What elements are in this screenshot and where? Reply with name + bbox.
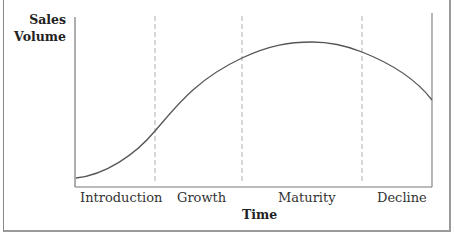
x-axis-label: Time (242, 207, 277, 222)
y-label-line2: Volume (14, 28, 66, 45)
phase-introduction: Introduction (80, 190, 162, 205)
y-label-line1: Sales (14, 11, 66, 28)
phase-maturity: Maturity (278, 190, 336, 205)
phase-decline: Decline (377, 190, 427, 205)
phase-growth: Growth (177, 190, 226, 205)
y-axis-label: Sales Volume (14, 11, 66, 45)
sales-curve (76, 42, 432, 178)
